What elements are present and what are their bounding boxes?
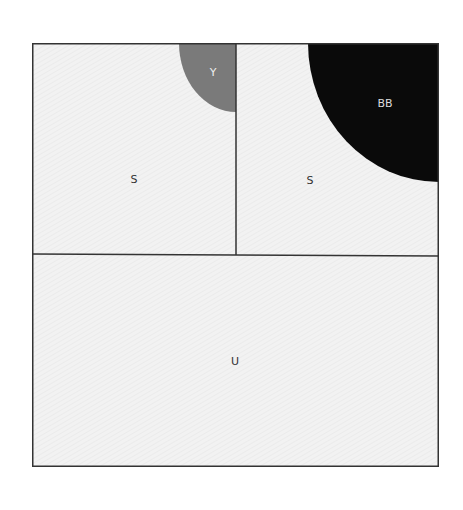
- diagram-board: S S U Y BB: [32, 43, 439, 467]
- small-circle-label: Y: [210, 66, 217, 79]
- region-label-top-left: S: [131, 173, 138, 186]
- region-label-top-right: S: [307, 174, 314, 187]
- large-circle-label: BB: [377, 97, 392, 110]
- region-label-bottom: U: [231, 355, 239, 368]
